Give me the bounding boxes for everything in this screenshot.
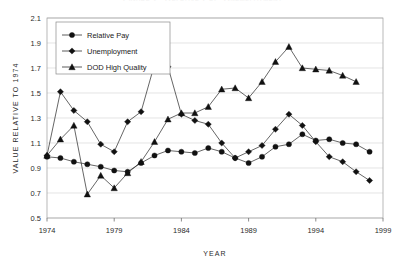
data-point-marker: [286, 44, 292, 50]
y-tick-label: 1.5: [31, 89, 41, 98]
data-point-marker: [246, 149, 252, 155]
legend-label-dod-high-quality: DOD High Quality: [87, 63, 147, 72]
data-point-marker: [165, 148, 170, 153]
x-tick-label: 1974: [39, 226, 56, 235]
x-tick-label: 1979: [106, 226, 123, 235]
data-point-marker: [85, 162, 90, 167]
data-point-marker: [151, 139, 157, 145]
data-point-marker: [366, 177, 372, 183]
data-point-marker: [98, 141, 104, 147]
chart-figure: Figure 2. Relative Pay, Unemployment 0.5…: [0, 0, 405, 272]
data-point-marker: [98, 172, 104, 178]
data-point-marker: [259, 79, 265, 85]
data-point-marker: [57, 89, 63, 95]
data-point-marker: [300, 132, 305, 137]
data-point-marker: [69, 32, 74, 37]
data-point-marker: [246, 160, 251, 165]
chart-canvas: 0.50.70.91.11.31.51.71.92.1 197419791984…: [0, 0, 405, 272]
data-point-marker: [353, 79, 359, 85]
y-axis-title: VALUE RELATIVE TO 1974: [12, 63, 19, 174]
data-point-marker: [71, 122, 77, 128]
x-tick-label: 1994: [307, 226, 324, 235]
data-point-marker: [112, 168, 117, 173]
y-tick-label: 0.9: [31, 164, 41, 173]
data-point-marker: [152, 153, 157, 158]
data-point-marker: [367, 149, 372, 154]
data-point-marker: [165, 116, 171, 122]
data-point-marker: [232, 85, 238, 91]
data-point-marker: [58, 155, 63, 160]
x-axis-tick-labels: 197419791984198919941999: [39, 218, 392, 235]
legend-label-relative-pay: Relative Pay: [87, 31, 129, 40]
data-point-marker: [206, 145, 211, 150]
y-tick-label: 0.5: [31, 214, 41, 223]
y-tick-label: 1.9: [31, 39, 41, 48]
data-point-marker: [327, 137, 332, 142]
data-point-marker: [259, 154, 264, 159]
data-point-marker: [340, 159, 346, 165]
chart-legend: Relative PayUnemploymentDOD High Quality: [56, 22, 170, 74]
y-tick-label: 1.1: [31, 139, 41, 148]
data-point-marker: [179, 149, 184, 154]
x-tick-label: 1984: [173, 226, 190, 235]
data-point-marker: [205, 121, 211, 127]
data-point-marker: [340, 140, 345, 145]
x-axis-title: YEAR: [203, 250, 226, 257]
x-tick-label: 1999: [375, 226, 392, 235]
data-point-marker: [71, 159, 76, 164]
data-point-marker: [354, 142, 359, 147]
y-tick-label: 2.1: [31, 14, 41, 23]
data-point-marker: [98, 164, 103, 169]
y-axis-tick-labels: 0.50.70.91.11.31.51.71.92.1: [31, 14, 41, 223]
y-tick-label: 1.7: [31, 64, 41, 73]
data-point-marker: [138, 109, 144, 115]
data-point-marker: [219, 149, 224, 154]
data-point-marker: [192, 150, 197, 155]
data-point-marker: [84, 191, 90, 197]
data-point-marker: [125, 119, 131, 125]
legend-label-unemployment: Unemployment: [87, 47, 138, 56]
data-point-marker: [273, 144, 278, 149]
data-point-marker: [339, 72, 345, 78]
data-point-marker: [353, 169, 359, 175]
data-point-marker: [111, 149, 117, 155]
y-tick-label: 1.3: [31, 114, 41, 123]
y-tick-label: 0.7: [31, 189, 41, 198]
data-point-marker: [286, 142, 291, 147]
x-tick-label: 1989: [240, 226, 257, 235]
